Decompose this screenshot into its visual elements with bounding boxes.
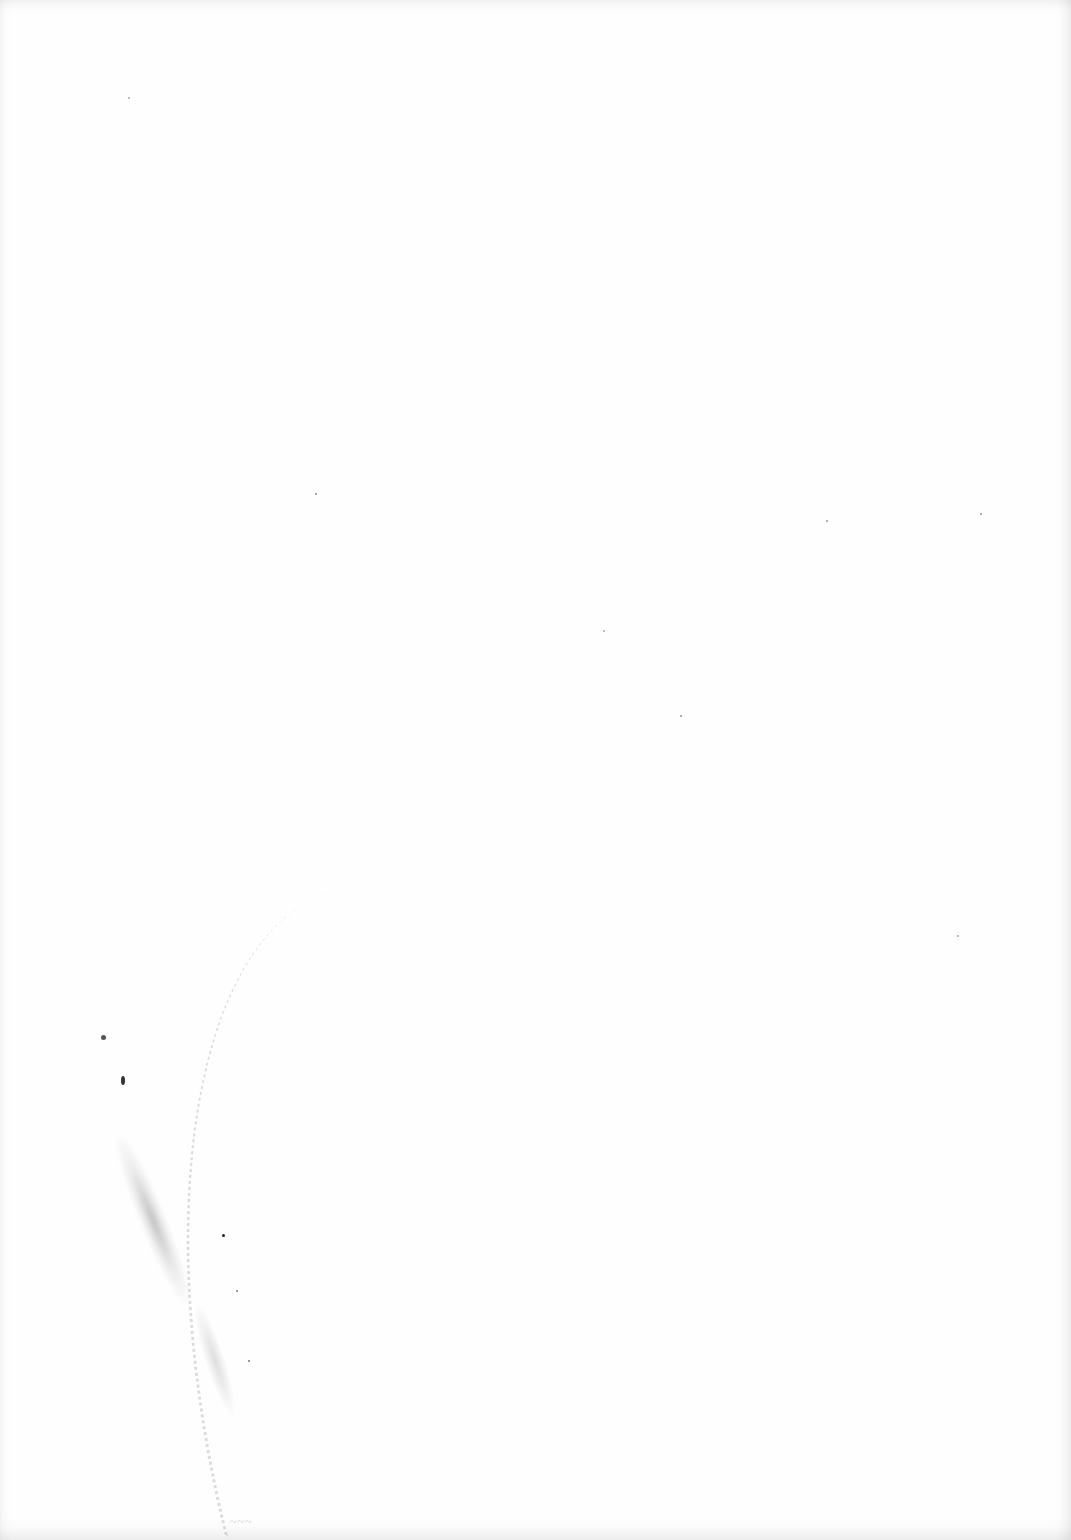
speck bbox=[315, 493, 317, 495]
speck bbox=[128, 97, 130, 99]
speck bbox=[248, 1360, 250, 1362]
speck bbox=[603, 630, 605, 632]
speck bbox=[222, 1234, 225, 1237]
speck bbox=[236, 1290, 238, 1292]
speck bbox=[826, 520, 828, 522]
faint-scribble: ~~~ bbox=[230, 1515, 252, 1530]
blank-scanned-page: ~~~ bbox=[0, 0, 1071, 1540]
speck bbox=[957, 935, 959, 937]
speck bbox=[121, 1076, 125, 1085]
speck bbox=[101, 1035, 106, 1040]
ink-smear bbox=[107, 1132, 199, 1309]
speck bbox=[980, 513, 982, 515]
speck bbox=[680, 715, 682, 717]
